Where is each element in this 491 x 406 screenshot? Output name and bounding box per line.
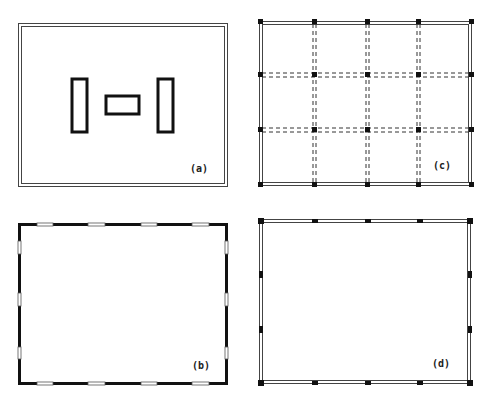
panel-b: (b) bbox=[18, 223, 228, 385]
panel-a: (a) bbox=[19, 24, 228, 187]
panel-label-a: (a) bbox=[190, 163, 208, 174]
core-right bbox=[158, 79, 173, 132]
core-center bbox=[106, 96, 139, 114]
panel-c: (c) bbox=[258, 19, 474, 187]
panel-d: (d) bbox=[258, 218, 473, 386]
structural-diagram: (a) (c) (b) bbox=[0, 0, 491, 406]
panel-label-b: (b) bbox=[192, 360, 210, 371]
panel-label-c: (c) bbox=[433, 160, 451, 171]
core-left bbox=[72, 79, 87, 132]
panel-label-d: (d) bbox=[432, 358, 450, 369]
